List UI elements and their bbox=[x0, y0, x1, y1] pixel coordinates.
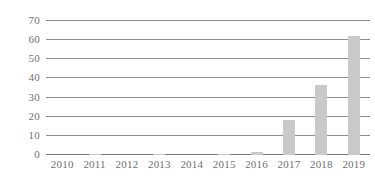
y-tick-label-40: 40 bbox=[0, 72, 40, 83]
y-tick-label-50: 50 bbox=[0, 53, 40, 64]
bar-2013 bbox=[153, 154, 165, 155]
bar-2018 bbox=[315, 85, 327, 155]
x-tick-label-2019: 2019 bbox=[338, 159, 370, 170]
bar-2017 bbox=[283, 120, 295, 155]
y-tick-label-70: 70 bbox=[0, 15, 40, 26]
x-tick-label-2012: 2012 bbox=[111, 159, 143, 170]
y-tick-label-0: 0 bbox=[0, 149, 40, 160]
y-tick-label-10: 10 bbox=[0, 130, 40, 141]
x-axis-tick-labels: 2010201120122013201420152016201720182019 bbox=[46, 159, 370, 181]
bar-2016 bbox=[251, 152, 263, 155]
x-tick-label-2011: 2011 bbox=[78, 159, 110, 170]
x-tick-label-2014: 2014 bbox=[176, 159, 208, 170]
y-tick-label-60: 60 bbox=[0, 34, 40, 45]
x-tick-label-2018: 2018 bbox=[305, 159, 337, 170]
bar-2011 bbox=[89, 154, 101, 155]
x-tick-label-2017: 2017 bbox=[273, 159, 305, 170]
bars-group bbox=[46, 21, 370, 155]
x-tick-label-2013: 2013 bbox=[143, 159, 175, 170]
y-tick-label-30: 30 bbox=[0, 92, 40, 103]
x-tick-label-2010: 2010 bbox=[46, 159, 78, 170]
x-tick-label-2016: 2016 bbox=[240, 159, 272, 170]
y-tick-label-20: 20 bbox=[0, 111, 40, 122]
y-axis-tick-labels: 010203040506070 bbox=[0, 0, 40, 184]
x-tick-label-2015: 2015 bbox=[208, 159, 240, 170]
plot-area bbox=[46, 21, 370, 155]
bar-2019 bbox=[348, 36, 360, 155]
bar-chart-figure: 010203040506070 201020112012201320142015… bbox=[0, 0, 375, 184]
bar-2015 bbox=[218, 154, 230, 155]
